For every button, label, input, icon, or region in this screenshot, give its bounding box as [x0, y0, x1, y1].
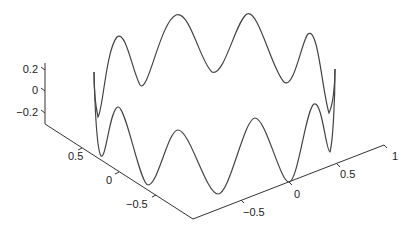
- x-tick-label: −0.5: [243, 206, 265, 218]
- y-tick-label: 0: [106, 174, 112, 186]
- z-tick-label: −0.2: [16, 106, 38, 118]
- x-tick-label: 0: [294, 188, 300, 200]
- x-tick-label: 0.5: [340, 168, 355, 180]
- x-axis: −0.5 0 0.5 1: [193, 145, 398, 219]
- chart-3d-plot: 0.2 0 −0.2 0.5 0 −0.5 −0.5 0 0.5 1: [0, 0, 412, 236]
- z-tick-label: 0: [32, 84, 38, 96]
- x-tick-label: 1: [392, 150, 398, 162]
- y-tick-label: 0.5: [68, 150, 83, 162]
- curve-front-half: [94, 69, 335, 194]
- z-axis: 0.2 0 −0.2: [16, 63, 45, 124]
- z-tick-label: 0.2: [23, 63, 38, 75]
- y-tick-label: −0.5: [126, 198, 148, 210]
- curve-back-half: [94, 14, 335, 117]
